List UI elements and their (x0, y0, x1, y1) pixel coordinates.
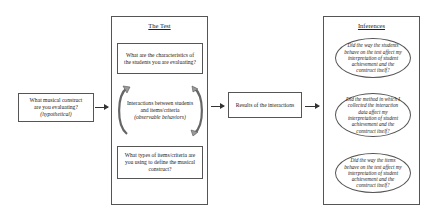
inference-text-items: Did the way the items behave on the test… (344, 157, 402, 188)
inferences-panel: Inferences Did the way the students beha… (323, 16, 420, 205)
interactions-text: Interactions between students and items/… (122, 97, 198, 123)
interactions-line-2: and items/criteria (141, 107, 180, 114)
student-characteristics-box: What are the characteristics of the stud… (117, 43, 203, 74)
construct-line-2: are you evaluating? (34, 104, 78, 111)
arrow-construct-to-test (95, 107, 108, 108)
inference-ellipse-method: Did the method in which I collected the … (335, 93, 411, 137)
inference-ellipse-students: Did the way the students behave on the t… (335, 38, 411, 78)
student-characteristics-text: What are the characteristics of the stud… (122, 52, 198, 66)
items-criteria-text: What types of items/criteria are you usi… (122, 152, 198, 173)
curved-arrow-left-icon (115, 85, 131, 137)
inferences-title: Inferences (324, 22, 419, 29)
interactions-line-1: Interactions between students (127, 100, 193, 107)
construct-line-1: What musical construct (30, 97, 83, 104)
construct-line-3: (hypothetical) (40, 111, 71, 118)
inference-ellipse-items: Did the way the items behave on the test… (335, 153, 411, 193)
construct-box: What musical construct are you evaluatin… (18, 93, 94, 122)
arrow-test-to-results (211, 106, 224, 107)
items-criteria-box: What types of items/criteria are you usi… (117, 146, 203, 179)
arrow-results-to-inferences (305, 106, 319, 107)
inference-text-method: Did the method in which I collected the … (344, 96, 402, 134)
results-box: Results of the interactions (228, 92, 302, 118)
inference-text-students: Did the way the students behave on the t… (344, 42, 402, 73)
curved-arrow-right-icon (190, 85, 206, 137)
test-panel: The Test What are the characteristics of… (111, 16, 208, 205)
interactions-line-3: (observable behaviors) (134, 114, 186, 121)
results-text: Results of the interactions (236, 102, 294, 109)
test-title: The Test (112, 22, 207, 29)
